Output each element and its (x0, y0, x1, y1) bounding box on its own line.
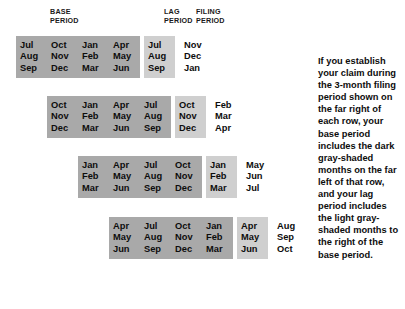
base-period-chart: BASE PERIOD LAG PERIOD FILING PERIOD Jul… (0, 0, 310, 309)
base-period-block: OctNovDecJanFebMarAprMayJunJulAugSep (47, 96, 171, 138)
month-column: FebMarApr (209, 96, 242, 138)
month-cell: May (113, 111, 140, 122)
month-cell: Mar (82, 183, 109, 194)
month-cell: Sep (144, 244, 171, 255)
month-column: AprMayJun (109, 156, 140, 198)
base-period-block: JanFebMarAprMayJunJulAugSepOctNovDec (78, 156, 202, 198)
base-period-block: AprMayJunJulAugSepOctNovDecJanFebMar (109, 217, 233, 259)
month-cell: Mar (82, 123, 109, 134)
month-cell: Sep (20, 63, 47, 74)
month-cell: Jun (113, 183, 140, 194)
month-column: AprMayJun (237, 217, 268, 259)
month-cell: Jan (82, 160, 109, 171)
month-cell: Nov (51, 51, 78, 62)
month-cell: Mar (215, 111, 242, 122)
month-cell: Mar (82, 63, 109, 74)
lag-period-block: OctNovDec (175, 96, 206, 138)
month-column: JanFebMar (78, 156, 109, 198)
month-column: JulAugSep (16, 36, 47, 78)
month-cell: Jun (246, 171, 273, 182)
month-column: JanFebMar (78, 36, 109, 78)
filing-period-block: AugSepOct (271, 217, 304, 259)
month-cell: Jun (241, 244, 268, 255)
month-cell: Oct (175, 160, 202, 171)
month-cell: Jul (148, 40, 175, 51)
month-cell: Nov (184, 40, 211, 51)
month-cell: Dec (51, 63, 78, 74)
period-row: OctNovDecJanFebMarAprMayJunJulAugSepOctN… (47, 96, 242, 138)
month-cell: Oct (277, 244, 304, 255)
month-cell: May (241, 232, 268, 243)
month-cell: Aug (144, 111, 171, 122)
month-cell: Oct (51, 40, 78, 51)
month-cell: Jan (206, 221, 233, 232)
month-column: OctNovDec (47, 96, 78, 138)
month-column: OctNovDec (171, 156, 202, 198)
period-row: AprMayJunJulAugSepOctNovDecJanFebMarAprM… (109, 217, 304, 259)
period-row: JanFebMarAprMayJunJulAugSepOctNovDecJanF… (78, 156, 273, 198)
month-column: AugSepOct (271, 217, 304, 259)
month-column: OctNovDec (175, 96, 206, 138)
month-cell: Nov (175, 171, 202, 182)
month-cell: Feb (82, 171, 109, 182)
month-cell: Dec (179, 123, 206, 134)
month-cell: Sep (148, 63, 175, 74)
month-cell: Jan (184, 63, 211, 74)
month-column: JulAugSep (140, 156, 171, 198)
lag-period-block: AprMayJun (237, 217, 268, 259)
month-column: JanFebMar (206, 156, 237, 198)
month-cell: Apr (215, 123, 242, 134)
base-period-block: JulAugSepOctNovDecJanFebMarAprMayJun (16, 36, 140, 78)
month-cell: Dec (184, 51, 211, 62)
month-column: AprMayJun (109, 96, 140, 138)
month-column: JulAugSep (140, 96, 171, 138)
month-cell: Apr (113, 100, 140, 111)
month-column: AprMayJun (109, 36, 140, 78)
month-cell: Jul (144, 160, 171, 171)
month-cell: Feb (210, 171, 237, 182)
month-cell: May (113, 171, 140, 182)
month-cell: Feb (82, 51, 109, 62)
month-column: JulAugSep (144, 36, 175, 78)
month-cell: Nov (51, 111, 78, 122)
month-cell: Oct (51, 100, 78, 111)
month-column: OctNovDec (47, 36, 78, 78)
month-cell: Aug (277, 221, 304, 232)
month-cell: Jan (210, 160, 237, 171)
month-cell: Aug (144, 171, 171, 182)
month-cell: Mar (210, 183, 237, 194)
explanatory-note: If you establish your claim during the 3… (318, 55, 402, 261)
month-column: OctNovDec (171, 217, 202, 259)
month-cell: Apr (113, 221, 140, 232)
filing-period-block: NovDecJan (178, 36, 211, 78)
month-cell: Nov (175, 232, 202, 243)
month-column: MayJunJul (240, 156, 273, 198)
month-cell: Sep (144, 123, 171, 134)
month-cell: Apr (113, 160, 140, 171)
month-cell: Jul (20, 40, 47, 51)
lag-period-block: JulAugSep (144, 36, 175, 78)
month-cell: Jul (144, 100, 171, 111)
month-cell: Feb (82, 111, 109, 122)
month-cell: Jun (113, 123, 140, 134)
month-cell: Nov (179, 111, 206, 122)
month-cell: Jun (113, 244, 140, 255)
month-cell: Aug (148, 51, 175, 62)
month-cell: Sep (144, 183, 171, 194)
month-cell: Sep (277, 232, 304, 243)
month-cell: Jan (82, 100, 109, 111)
period-row: JulAugSepOctNovDecJanFebMarAprMayJunJulA… (16, 36, 211, 78)
column-header-lag-period: LAG PERIOD (164, 7, 193, 25)
month-cell: Oct (179, 100, 206, 111)
month-cell: May (246, 160, 273, 171)
month-cell: Dec (51, 123, 78, 134)
month-cell: Jun (113, 63, 140, 74)
month-column: JulAugSep (140, 217, 171, 259)
filing-period-block: MayJunJul (240, 156, 273, 198)
month-cell: May (113, 232, 140, 243)
lag-period-block: JanFebMar (206, 156, 237, 198)
month-cell: Oct (175, 221, 202, 232)
month-cell: Apr (113, 40, 140, 51)
month-column: AprMayJun (109, 217, 140, 259)
month-cell: Jul (246, 183, 273, 194)
